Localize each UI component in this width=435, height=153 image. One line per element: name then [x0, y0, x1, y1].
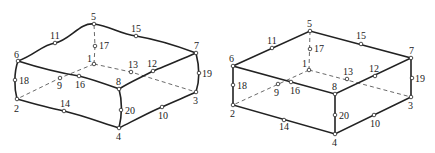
- node-label: 3: [408, 100, 413, 111]
- node-label: 1: [302, 58, 307, 69]
- node-marker: [409, 95, 413, 99]
- node-label: 5: [307, 18, 312, 29]
- node-label: 16: [75, 79, 85, 90]
- node-marker: [409, 56, 413, 60]
- node-marker: [160, 105, 164, 109]
- node-label: 11: [267, 35, 277, 46]
- node-marker: [231, 83, 235, 87]
- node-marker: [410, 76, 414, 80]
- node-label: 17: [314, 43, 324, 54]
- node-marker: [231, 64, 235, 68]
- node-label: 10: [370, 118, 380, 129]
- node-label: 12: [147, 58, 157, 69]
- node-label: 9: [57, 80, 62, 91]
- node-label: 2: [230, 108, 235, 119]
- node-marker: [276, 82, 280, 86]
- node-marker: [345, 77, 349, 81]
- node-label: 19: [415, 73, 425, 84]
- node-label: 15: [356, 30, 366, 41]
- node-marker: [92, 62, 96, 66]
- node-marker: [129, 70, 133, 74]
- node-label: 5: [91, 11, 96, 22]
- node-marker: [197, 71, 201, 75]
- node-label: 16: [290, 85, 300, 96]
- node-marker: [308, 29, 312, 33]
- node-label: 9: [274, 87, 279, 98]
- node-label: 18: [237, 80, 247, 91]
- node-marker: [373, 74, 377, 78]
- node-marker: [307, 68, 311, 72]
- node-marker: [53, 41, 57, 45]
- node-label: 11: [50, 30, 60, 41]
- node-marker: [194, 90, 198, 94]
- node-label: 19: [202, 68, 212, 79]
- node-label: 6: [14, 49, 19, 60]
- node-marker: [13, 78, 17, 82]
- node-marker: [289, 80, 293, 84]
- node-marker: [194, 51, 198, 55]
- node-marker: [77, 74, 81, 78]
- node-marker: [372, 113, 376, 117]
- node-label: 10: [158, 110, 168, 121]
- node-marker: [231, 103, 235, 107]
- node-label: 7: [194, 40, 199, 51]
- node-label: 1: [87, 53, 92, 64]
- node-marker: [134, 34, 138, 38]
- node-marker: [93, 44, 97, 48]
- node-marker: [117, 126, 121, 130]
- hexahedron-element-diagram: 1234567891011121314151617181920123456789…: [0, 0, 435, 153]
- node-marker: [308, 47, 312, 51]
- node-markers: [13, 22, 414, 136]
- node-label: 8: [116, 76, 121, 87]
- node-marker: [333, 132, 337, 136]
- node-label: 14: [279, 121, 289, 132]
- node-marker: [333, 113, 337, 117]
- node-label: 20: [339, 110, 349, 121]
- node-label: 7: [409, 45, 414, 56]
- node-marker: [92, 22, 96, 26]
- node-label: 8: [332, 81, 337, 92]
- node-label: 15: [131, 23, 141, 34]
- node-label: 18: [19, 75, 29, 86]
- node-label: 12: [369, 63, 379, 74]
- node-marker: [270, 46, 274, 50]
- node-label: 17: [99, 40, 109, 51]
- node-marker: [117, 87, 121, 91]
- node-label: 4: [116, 131, 121, 142]
- node-label: 3: [193, 95, 198, 106]
- node-marker: [359, 42, 363, 46]
- node-label: 13: [343, 66, 353, 77]
- node-marker: [151, 69, 155, 73]
- node-marker: [62, 109, 66, 113]
- node-marker: [333, 92, 337, 96]
- node-label: 4: [332, 137, 337, 148]
- node-label: 6: [229, 53, 234, 64]
- node-label: 20: [125, 105, 135, 116]
- node-marker: [15, 97, 19, 101]
- node-label: 13: [128, 59, 138, 70]
- node-label: 14: [60, 98, 70, 109]
- node-label: 2: [14, 103, 19, 114]
- node-marker: [119, 108, 123, 112]
